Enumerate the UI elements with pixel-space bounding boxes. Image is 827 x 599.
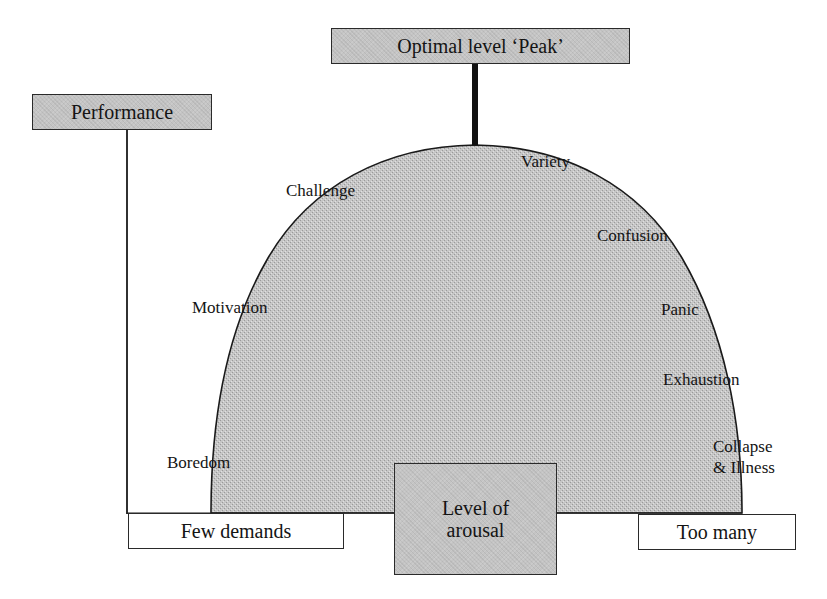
label-collapse: Collapse bbox=[713, 437, 773, 456]
optimal-level-peak-box: Optimal level ‘Peak’ bbox=[331, 28, 630, 64]
label-challenge: Challenge bbox=[286, 181, 355, 200]
optimal-level-peak-label: Optimal level ‘Peak’ bbox=[397, 35, 564, 57]
label-variety: Variety bbox=[521, 152, 570, 171]
performance-curve bbox=[211, 145, 742, 513]
few-demands-label: Few demands bbox=[181, 520, 292, 542]
label-confusion: Confusion bbox=[597, 226, 668, 245]
label-illness: & Illness bbox=[713, 458, 775, 477]
performance-arousal-diagram: Optimal level ‘Peak’ Performance Few dem… bbox=[0, 0, 827, 599]
level-of-arousal-line2: arousal bbox=[447, 519, 505, 541]
performance-axis-label: Performance bbox=[71, 101, 173, 123]
label-panic: Panic bbox=[661, 300, 699, 319]
level-of-arousal-line1: Level of bbox=[442, 497, 509, 519]
label-boredom: Boredom bbox=[167, 453, 230, 472]
performance-axis-box: Performance bbox=[32, 94, 212, 130]
too-many-label: Too many bbox=[677, 521, 757, 543]
label-exhaustion: Exhaustion bbox=[663, 370, 740, 389]
few-demands-box: Few demands bbox=[128, 513, 344, 549]
too-many-box: Too many bbox=[638, 514, 796, 550]
label-motivation: Motivation bbox=[192, 298, 268, 317]
level-of-arousal-box: Level of arousal bbox=[394, 463, 557, 575]
